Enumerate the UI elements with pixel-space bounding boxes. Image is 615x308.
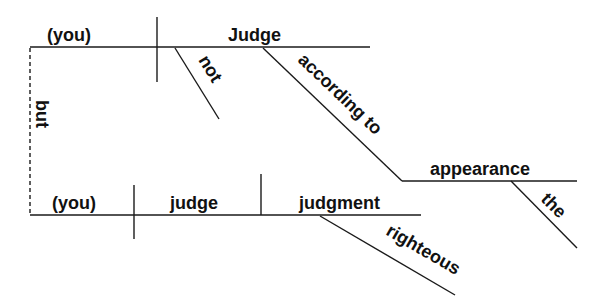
clause1-verb: Judge	[228, 25, 281, 45]
modifier-the: the	[537, 189, 570, 222]
modifier-not: not	[195, 52, 227, 86]
sentence-diagram: (you) Judge not according to appearance …	[0, 0, 615, 308]
preposition-according-to: according to	[294, 49, 386, 138]
clause2-subject: (you)	[52, 193, 96, 213]
according-to-line	[263, 48, 402, 181]
clause1-subject: (you)	[47, 25, 91, 45]
clause2-verb: judge	[169, 193, 218, 213]
clause2-direct-object: judgment	[298, 193, 380, 213]
conjunction-but: but	[32, 100, 52, 128]
the-modifier-line	[511, 181, 577, 248]
object-appearance: appearance	[430, 159, 530, 179]
modifier-righteous: righteous	[383, 220, 464, 279]
